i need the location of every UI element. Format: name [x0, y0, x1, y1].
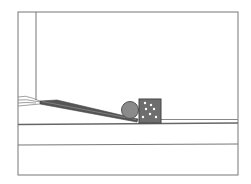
outer-frame	[18, 12, 238, 175]
game-scene	[0, 0, 251, 184]
box[interactable]	[139, 99, 161, 123]
ball[interactable]	[122, 102, 139, 119]
